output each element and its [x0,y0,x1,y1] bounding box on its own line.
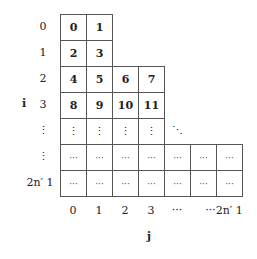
col-label: 2 [112,204,138,217]
row-label: 2n′ 1 [22,176,58,189]
row-label: 0 [36,20,50,33]
grid-cell-ellipsis: ··· [190,144,217,171]
col-label: ··· [164,204,190,217]
grid-cell-vdots: ⋮ [138,118,165,145]
grid-cell-index: 5 [86,66,113,93]
grid-cell-index: 9 [86,92,113,119]
grid-cell-index: 0 [60,14,87,41]
grid-cell-vdots: ⋮ [86,118,113,145]
grid-cell-ellipsis: ··· [216,144,243,171]
col-label: 0 [60,204,86,217]
col-label: ···2n′ 1 [196,204,252,217]
row-label: 3 [36,98,50,111]
col-axis-label: j [147,230,151,243]
row-label: 1 [36,46,50,59]
grid-cell-index: 11 [138,92,165,119]
row-label: ⋮ [36,124,50,137]
grid-cell-ellipsis: ··· [216,170,243,197]
row-axis-label: i [22,97,26,110]
grid-cell-index: 3 [86,40,113,67]
col-label: 1 [86,204,112,217]
grid-cell-ellipsis: ··· [86,144,113,171]
grid-cell-ellipsis: ··· [60,144,87,171]
diagonal-dots: ⋱ [164,124,190,137]
grid-cell-index: 2 [60,40,87,67]
row-label: 2 [36,72,50,85]
col-label: 3 [138,204,164,217]
grid-cell-vdots: ⋮ [60,118,87,145]
grid-cell-ellipsis: ··· [138,144,165,171]
grid-cell-index: 6 [112,66,139,93]
grid-cell-index: 4 [60,66,87,93]
grid-cell-ellipsis: ··· [60,170,87,197]
grid-cell-ellipsis: ··· [190,170,217,197]
grid-cell-ellipsis: ··· [164,170,191,197]
grid-cell-index: 8 [60,92,87,119]
row-label: ⋮ [36,150,50,163]
grid-cell-ellipsis: ··· [112,170,139,197]
grid-cell-ellipsis: ··· [86,170,113,197]
grid-cell-ellipsis: ··· [112,144,139,171]
grid-cell-ellipsis: ··· [164,144,191,171]
grid-cell-vdots: ⋮ [112,118,139,145]
grid-cell-index: 1 [86,14,113,41]
grid-cell-index: 10 [112,92,139,119]
grid-cell-index: 7 [138,66,165,93]
grid-cell-ellipsis: ··· [138,170,165,197]
